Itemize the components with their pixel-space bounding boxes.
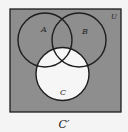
venn-diagram: A B C U C′ (0, 0, 128, 132)
set-b-label: B (81, 27, 88, 36)
caption: C′ (59, 118, 70, 131)
set-c-label: C (60, 88, 66, 97)
set-a-label: A (40, 25, 47, 34)
